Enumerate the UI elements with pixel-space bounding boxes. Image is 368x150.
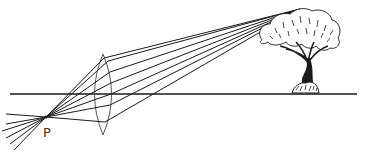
tree-canopy xyxy=(260,9,340,51)
ray-2 xyxy=(10,9,300,144)
optics-diagram: P xyxy=(0,0,368,150)
tree xyxy=(260,9,340,93)
ray-4 xyxy=(2,9,300,131)
label-p: P xyxy=(43,126,51,139)
focal-point xyxy=(44,115,47,118)
ray-7 xyxy=(46,9,300,117)
